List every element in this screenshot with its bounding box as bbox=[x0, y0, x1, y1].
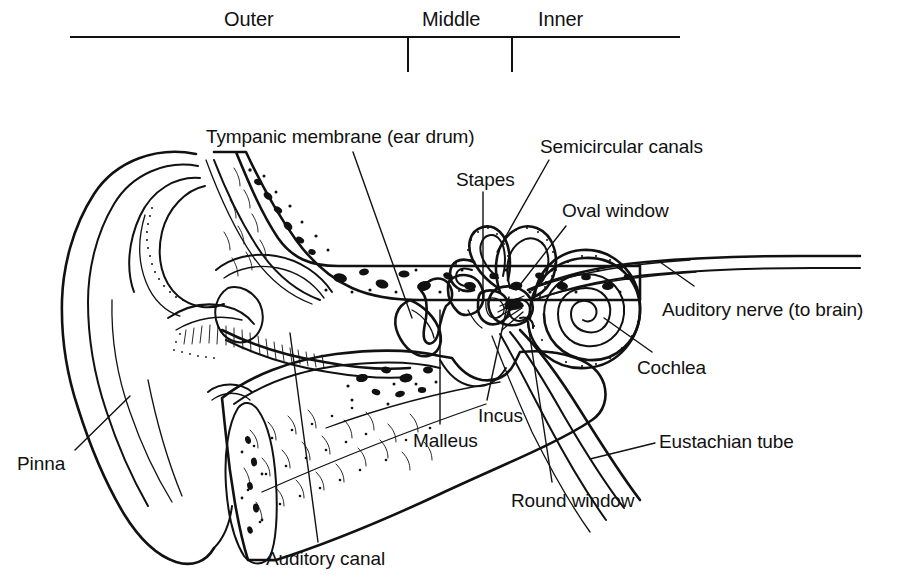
pinna-antihelix-curve bbox=[160, 186, 224, 307]
concha-opening-inner bbox=[224, 266, 324, 298]
cochlea-spiral-turn-3 bbox=[558, 288, 610, 332]
eustachian-tube-wall-upper bbox=[520, 330, 640, 500]
leader-auditory-canal bbox=[290, 333, 318, 542]
auditory-canal-floor-inner bbox=[226, 340, 410, 378]
label-stapes: Stapes bbox=[456, 169, 515, 191]
tragus-cartilage bbox=[215, 287, 263, 342]
tympanic-membrane bbox=[395, 300, 441, 356]
label-incus: Incus bbox=[478, 405, 523, 427]
label-pinna: Pinna bbox=[17, 453, 65, 475]
leader-round-window bbox=[527, 318, 552, 482]
label-round-window: Round window bbox=[511, 490, 634, 512]
label-auditory-canal: Auditory canal bbox=[266, 548, 385, 570]
semicircular-canal-posterior-inner bbox=[480, 235, 505, 278]
region-label-middle: Middle bbox=[422, 8, 480, 30]
region-label-inner: Inner bbox=[538, 8, 583, 30]
pinna-antitragus-line bbox=[176, 317, 242, 330]
region-scale-bar bbox=[70, 37, 680, 72]
label-cochlea: Cochlea bbox=[637, 357, 706, 379]
canal-floor-curl-inner bbox=[212, 393, 250, 400]
label-oval-window: Oval window bbox=[562, 200, 669, 222]
upper-temporal-bone bbox=[206, 152, 640, 304]
pinna-drawing bbox=[62, 152, 324, 564]
lower-temporal-bone bbox=[208, 351, 606, 564]
pinna-helix-rim-line bbox=[112, 300, 172, 502]
label-malleus: Malleus bbox=[413, 430, 478, 452]
leader-eustachian-tube bbox=[590, 443, 655, 459]
pinna-lobe-contour bbox=[148, 380, 182, 496]
auditory-nerve-upper-branch bbox=[528, 256, 860, 290]
ear-anatomy-drawing bbox=[0, 0, 904, 585]
upper-bone-outline bbox=[214, 152, 640, 300]
semicircular-canal-superior-inner bbox=[507, 238, 548, 290]
lower-bone-trabeculae bbox=[244, 410, 432, 520]
label-tympanic-membrane: Tympanic membrane (ear drum) bbox=[206, 126, 475, 148]
pinna-hatch-dots bbox=[173, 333, 215, 359]
ear-anatomy-figure: Outer Middle Inner Tympanic membrane (ea… bbox=[0, 0, 904, 585]
tympanic-membrane-drawing bbox=[395, 300, 441, 356]
label-auditory-nerve: Auditory nerve (to brain) bbox=[662, 299, 863, 321]
lower-bone-cavities bbox=[346, 366, 437, 406]
region-label-outer: Outer bbox=[224, 8, 274, 30]
cochlea-spiral-apex bbox=[571, 301, 597, 322]
pinna-helix-inner-fold bbox=[88, 165, 198, 506]
pinna-concha-arc bbox=[140, 215, 180, 316]
lower-bone-shade-1 bbox=[326, 382, 500, 428]
mastoid-cavity-cells bbox=[241, 435, 264, 534]
label-semicircular-canals: Semicircular canals bbox=[540, 136, 703, 158]
label-eustachian-tube: Eustachian tube bbox=[659, 431, 794, 453]
pinna-helix-outer bbox=[62, 152, 214, 564]
